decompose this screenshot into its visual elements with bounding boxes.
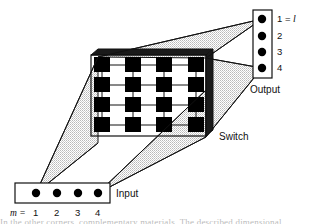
switch-cell[interactable] [94,57,110,72]
switch-cell[interactable] [125,77,141,92]
input-port-dot[interactable] [53,189,61,197]
input-port-dot[interactable] [32,189,40,197]
page-caption-fragment: In the other corners, complementary mate… [0,217,312,224]
switch-label: Switch [219,131,248,142]
switch-cell[interactable] [156,57,172,72]
switch-cell[interactable] [188,57,204,72]
switch-cell[interactable] [125,117,141,132]
output-port-dot[interactable] [258,48,266,56]
output-port-dot[interactable] [258,15,266,23]
switch-right-depth-face [206,49,213,136]
switch-cell[interactable] [156,77,172,92]
output-port-label-4: 4 [277,62,282,73]
input-port-dot[interactable] [94,189,102,197]
output-group-label: Output [250,84,280,95]
output-port-label-1-italic: l [293,13,296,24]
output-port-label-1: 1 = [277,13,291,24]
crossbar-switch-diagram: 1 = l 2 3 4 Output m = 1 2 3 4 Input Swi… [0,0,312,224]
switch-cell[interactable] [188,117,204,132]
output-port-group[interactable]: 1 = l 2 3 4 Output [250,10,296,95]
switch-box-group[interactable] [91,49,213,136]
switch-cell[interactable] [94,97,110,112]
switch-cell[interactable] [94,117,110,132]
output-port-label-3: 3 [277,46,282,57]
figure-root: 1 = l 2 3 4 Output m = 1 2 3 4 Input Swi… [0,0,312,224]
input-port-dot[interactable] [74,189,82,197]
output-port-dot[interactable] [258,32,266,40]
input-group-label: Input [116,188,138,199]
output-port-label-2: 2 [277,30,282,41]
switch-cell[interactable] [188,77,204,92]
switch-cell[interactable] [156,97,172,112]
switch-cell[interactable] [125,57,141,72]
output-port-dot[interactable] [258,64,266,72]
input-port-group[interactable]: m = 1 2 3 4 Input [10,183,138,218]
switch-cell[interactable] [125,97,141,112]
switch-cell[interactable] [94,77,110,92]
